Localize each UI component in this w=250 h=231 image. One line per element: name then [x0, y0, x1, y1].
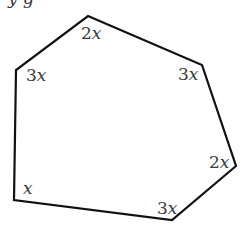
hexagon-diagram: y g 2x3x2x3xx3x — [0, 0, 250, 231]
angle-label-top: 2x — [81, 23, 102, 43]
angle-labels: 2x3x2x3xx3x — [23, 23, 230, 218]
angle-coefficient: 2 — [209, 152, 220, 172]
angle-coefficient: 3 — [178, 64, 189, 84]
angle-coefficient: 3 — [157, 198, 168, 218]
top-text-fragment: y g — [7, 0, 34, 8]
angle-label-upper-right: 3x — [178, 64, 199, 84]
angle-variable: x — [168, 198, 178, 218]
angle-variable: x — [189, 64, 199, 84]
angle-coefficient: 3 — [26, 65, 37, 85]
angle-coefficient: 2 — [81, 23, 92, 43]
angle-variable: x — [92, 23, 102, 43]
angle-label-right: 2x — [209, 152, 230, 172]
angle-variable: x — [37, 65, 47, 85]
angle-variable: x — [220, 152, 230, 172]
angle-label-upper-left: 3x — [26, 65, 47, 85]
angle-label-bottom-right: 3x — [157, 198, 178, 218]
hexagon-outline — [14, 16, 236, 220]
angle-variable: x — [23, 178, 33, 198]
angle-label-bottom-left: x — [23, 178, 33, 198]
